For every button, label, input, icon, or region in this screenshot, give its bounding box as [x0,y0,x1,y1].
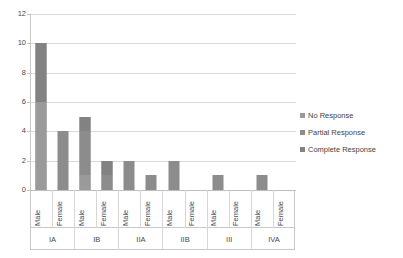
category-tick-label: Male [166,210,174,226]
legend-label: Partial Response [308,128,365,137]
y-tick-label: 10 [2,39,26,47]
category-tick-label: Male [78,210,86,226]
y-tick-mark [27,161,30,162]
bar[interactable] [58,131,69,190]
group-label-ib: IB [75,228,119,250]
y-tick-mark [27,131,30,132]
bar-segment[interactable] [58,131,69,190]
group-label-iii: III [208,228,252,250]
group-label-iib: IIB [164,228,208,250]
bar-slot [140,14,162,190]
bar-segment[interactable] [102,175,113,190]
legend-swatch-icon [300,130,305,135]
bar-slot [207,14,229,190]
bar-segment[interactable] [124,161,135,190]
y-tick-label: 0 [2,186,26,194]
bar-segment[interactable] [212,175,223,190]
bar-slot [74,14,96,190]
bar-slot [30,14,52,190]
y-axis: 024681012 [0,14,26,190]
category-tick-female: Female [141,190,163,228]
category-tick-male: Male [208,190,230,228]
y-tick-label: 4 [2,127,26,135]
bar-slot [118,14,140,190]
legend-item[interactable]: No Response [300,107,400,124]
bar-segment[interactable] [80,175,91,190]
category-tick-female: Female [274,190,296,228]
bar-slot [273,14,295,190]
bars-layer [30,14,295,190]
bar-slot [96,14,118,190]
legend-swatch-icon [300,113,305,118]
group-label-iia: IIA [119,228,163,250]
category-tick-male: Male [252,190,274,228]
bar-slot [52,14,74,190]
group-label-iva: IVA [252,228,296,250]
legend-item[interactable]: Partial Response [300,124,400,141]
bar-slot [251,14,273,190]
category-tick-female: Female [53,190,75,228]
y-tick-mark [27,14,30,15]
category-tick-female: Female [97,190,119,228]
bar-segment[interactable] [146,175,157,190]
bar-segment[interactable] [36,102,47,190]
y-tick-mark [27,73,30,74]
legend-swatch-icon [300,147,305,152]
y-tick-label: 8 [2,69,26,77]
bar[interactable] [256,175,267,190]
bar-chart: 024681012 MaleFemaleMaleFemaleMaleFemale… [0,0,403,258]
y-tick-label: 2 [2,157,26,165]
bar[interactable] [124,161,135,190]
category-tick-label: Female [232,201,240,226]
category-tick-male: Male [31,190,53,228]
legend-label: Complete Response [308,145,376,154]
category-tick-male: Male [75,190,97,228]
bar[interactable] [146,175,157,190]
y-tick-mark [27,43,30,44]
bar[interactable] [212,175,223,190]
category-tick-male: Male [119,190,141,228]
category-tick-label: Female [56,201,64,226]
category-axis: MaleFemaleMaleFemaleMaleFemaleMaleFemale… [30,190,295,228]
category-tick-male: Male [164,190,186,228]
bar-segment[interactable] [102,161,113,176]
bar[interactable] [36,43,47,190]
bar[interactable] [168,161,179,190]
category-tick-label: Female [100,201,108,226]
legend-item[interactable]: Complete Response [300,141,400,158]
chart-legend: No ResponsePartial ResponseComplete Resp… [300,107,400,158]
bar-segment[interactable] [168,161,179,190]
category-tick-label: Female [188,201,196,226]
y-tick-mark [27,102,30,103]
bar-segment[interactable] [80,131,91,175]
y-tick-label: 12 [2,10,26,18]
category-tick-label: Male [122,210,130,226]
bar-segment[interactable] [80,117,91,132]
legend-label: No Response [308,111,353,120]
bar-slot [229,14,251,190]
bar-segment[interactable] [256,175,267,190]
bar-slot [185,14,207,190]
group-label-ia: IA [31,228,75,250]
bar[interactable] [102,161,113,190]
y-tick-label: 6 [2,98,26,106]
category-tick-female: Female [230,190,252,228]
bar[interactable] [80,117,91,190]
y-tick-mark [27,190,30,191]
category-tick-label: Male [210,210,218,226]
category-tick-label: Male [34,210,42,226]
category-tick-label: Male [254,210,262,226]
bar-segment[interactable] [36,43,47,102]
bar-slot [163,14,185,190]
group-axis: IAIBIIAIIBIIIIVA [30,228,295,250]
category-tick-female: Female [186,190,208,228]
category-tick-label: Female [144,201,152,226]
category-tick-label: Female [277,201,285,226]
